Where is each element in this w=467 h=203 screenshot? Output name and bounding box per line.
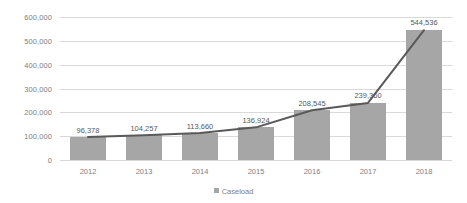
- x-axis-tick-2018: 2018: [416, 167, 433, 176]
- y-axis-tick-300000: 300,000: [24, 84, 52, 93]
- y-axis-tick-600000: 600,000: [24, 13, 52, 22]
- legend-swatch-caseload: [214, 188, 219, 193]
- caseload-bar-chart: 600,000 500,000 400,000 300,000 200,000 …: [0, 0, 467, 203]
- legend-label-caseload: Caseload: [222, 187, 254, 196]
- x-axis-tick-2017: 2017: [360, 167, 377, 176]
- gridline-600000: [60, 17, 452, 18]
- x-axis-tick-2014: 2014: [192, 167, 209, 176]
- gridline-200000: [60, 112, 452, 113]
- x-axis-baseline: [60, 160, 452, 161]
- y-axis-tick-400000: 400,000: [24, 60, 52, 69]
- x-axis-tick-2013: 2013: [136, 167, 153, 176]
- chart-legend: Caseload: [0, 186, 467, 196]
- gridline-100000: [60, 136, 452, 137]
- y-axis-tick-200000: 200,000: [24, 108, 52, 117]
- y-axis-tick-100000: 100,000: [24, 132, 52, 141]
- x-axis-tick-2016: 2016: [304, 167, 321, 176]
- plot-area: [60, 17, 452, 160]
- y-axis-labels: 600,000 500,000 400,000 300,000 200,000 …: [0, 0, 56, 203]
- x-axis-tick-2012: 2012: [80, 167, 97, 176]
- gridline-300000: [60, 89, 452, 90]
- gridline-500000: [60, 41, 452, 42]
- y-axis-tick-500000: 500,000: [24, 36, 52, 45]
- y-axis-tick-0: 0: [48, 156, 52, 165]
- x-axis-tick-2015: 2015: [248, 167, 265, 176]
- gridline-400000: [60, 65, 452, 66]
